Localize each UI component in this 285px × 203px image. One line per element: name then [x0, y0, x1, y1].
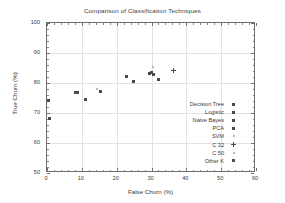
- x-tick-label: 10: [71, 175, 91, 181]
- x-axis-label: False Churn (%): [46, 188, 255, 195]
- x-tick-label: 60: [245, 175, 265, 181]
- y-tick-label: 90: [20, 49, 40, 55]
- y-axis-tick: [47, 113, 50, 114]
- y-axis-tick: [47, 23, 50, 24]
- y-axis-minor-tick: [47, 125, 49, 126]
- x-axis-tick: [117, 23, 118, 26]
- y-axis-minor-tick: [47, 71, 49, 72]
- data-point: [152, 73, 155, 76]
- x-axis-minor-tick: [89, 23, 90, 25]
- x-axis-tick: [256, 23, 257, 26]
- x-tick-label: 20: [106, 175, 126, 181]
- y-axis-minor-tick: [47, 167, 49, 168]
- x-axis-minor-tick: [89, 170, 90, 172]
- x-axis-minor-tick: [75, 23, 76, 25]
- x-axis-minor-tick: [131, 170, 132, 172]
- y-axis-minor-tick: [47, 149, 49, 150]
- legend-item-label: C 50: [212, 150, 224, 156]
- x-axis-minor-tick: [124, 23, 125, 25]
- x-tick-label: 30: [141, 175, 161, 181]
- y-axis-minor-tick: [47, 155, 49, 156]
- y-axis-minor-tick: [253, 59, 255, 60]
- x-axis-minor-tick: [61, 23, 62, 25]
- y-axis-minor-tick: [253, 107, 255, 108]
- y-tick-label: 80: [20, 79, 40, 85]
- x-axis-minor-tick: [54, 170, 55, 172]
- data-point: [47, 99, 50, 102]
- data-point: [96, 88, 98, 90]
- x-axis-minor-tick: [207, 170, 208, 172]
- legend-item[interactable]: C 50: [152, 149, 240, 157]
- y-axis-minor-tick: [253, 131, 255, 132]
- y-axis-tick: [251, 113, 254, 114]
- x-tick-label: 40: [175, 175, 195, 181]
- x-axis-minor-tick: [131, 23, 132, 25]
- legend-item[interactable]: Logistic: [152, 108, 240, 116]
- legend-item[interactable]: PCA: [152, 124, 240, 132]
- data-point: [171, 68, 176, 73]
- y-tick-label: 100: [20, 19, 40, 25]
- gridline-vertical: [117, 23, 118, 171]
- x-axis-minor-tick: [214, 170, 215, 172]
- x-axis-minor-tick: [242, 23, 243, 25]
- legend-item[interactable]: Naive Bayes: [152, 116, 240, 124]
- y-axis-minor-tick: [253, 29, 255, 30]
- y-axis-label: True Churn (%): [11, 49, 18, 139]
- x-axis-minor-tick: [179, 23, 180, 25]
- legend-item[interactable]: SVM: [152, 132, 240, 140]
- legend-marker-icon: [228, 100, 240, 108]
- legend-item-label: C 32: [212, 142, 224, 148]
- y-tick-label: 60: [20, 139, 40, 145]
- y-axis-tick: [47, 173, 50, 174]
- chart-title: Comparison of Classification Techniques: [0, 7, 285, 14]
- y-axis-minor-tick: [253, 155, 255, 156]
- x-axis-tick: [221, 168, 222, 171]
- y-axis-minor-tick: [47, 29, 49, 30]
- y-axis-minor-tick: [253, 71, 255, 72]
- data-point: [132, 80, 135, 83]
- data-point: [84, 98, 87, 101]
- y-axis-minor-tick: [253, 119, 255, 120]
- x-axis-tick: [47, 168, 48, 171]
- x-axis-minor-tick: [68, 23, 69, 25]
- x-axis-tick: [117, 168, 118, 171]
- y-axis-minor-tick: [253, 89, 255, 90]
- x-axis-minor-tick: [172, 23, 173, 25]
- x-axis-minor-tick: [249, 23, 250, 25]
- legend-marker-icon: [228, 132, 240, 140]
- y-axis-tick: [47, 83, 50, 84]
- x-axis-tick: [186, 168, 187, 171]
- legend-marker-icon: [228, 149, 240, 157]
- y-axis-minor-tick: [253, 161, 255, 162]
- y-axis-minor-tick: [253, 65, 255, 66]
- y-axis-minor-tick: [47, 107, 49, 108]
- x-axis-minor-tick: [61, 170, 62, 172]
- y-axis-tick: [251, 83, 254, 84]
- x-axis-minor-tick: [165, 170, 166, 172]
- legend-item[interactable]: Decision Tree: [152, 100, 240, 108]
- y-axis-minor-tick: [47, 161, 49, 162]
- x-axis-minor-tick: [110, 23, 111, 25]
- y-axis-minor-tick: [253, 149, 255, 150]
- x-axis-minor-tick: [110, 170, 111, 172]
- data-point: [76, 91, 79, 94]
- legend-item[interactable]: C 32: [152, 140, 240, 148]
- legend-item[interactable]: Other K: [152, 157, 240, 165]
- y-axis-minor-tick: [47, 47, 49, 48]
- x-axis-minor-tick: [103, 23, 104, 25]
- x-axis-tick: [82, 23, 83, 26]
- gridline-vertical: [82, 23, 83, 171]
- legend-marker-icon: [228, 157, 240, 165]
- x-axis-minor-tick: [200, 170, 201, 172]
- y-axis-minor-tick: [253, 95, 255, 96]
- y-axis-tick: [47, 53, 50, 54]
- legend-item-label: Decision Tree: [190, 101, 224, 107]
- y-axis-minor-tick: [253, 125, 255, 126]
- x-axis-tick: [256, 168, 257, 171]
- x-axis-minor-tick: [228, 23, 229, 25]
- x-axis-minor-tick: [193, 23, 194, 25]
- chart-legend: Decision TreeLogisticNaive BayesPCASVMC …: [152, 100, 240, 165]
- data-point: [99, 90, 102, 93]
- x-axis-tick: [221, 23, 222, 26]
- y-axis-tick: [251, 23, 254, 24]
